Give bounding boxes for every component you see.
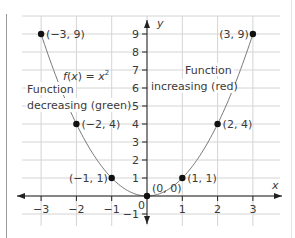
function-label: f(x) = x2 (63, 69, 109, 83)
increasing-annotation-line2: increasing (red) (151, 80, 238, 93)
y-tick-label: 8 (132, 46, 139, 59)
y-axis-label: y (156, 17, 164, 30)
point-label: (−3, 9) (46, 28, 85, 41)
y-tick-label: 6 (132, 82, 139, 95)
x-tick-label: −1 (104, 203, 120, 216)
data-point-marker (109, 175, 115, 181)
data-point-marker (250, 31, 256, 37)
x-axis-label: x (271, 179, 279, 192)
data-point-marker (214, 121, 220, 127)
y-tick-label: 7 (132, 64, 139, 77)
point-label: (0, 0) (152, 182, 182, 195)
x-tick-label: −2 (68, 203, 84, 216)
data-point-marker (38, 31, 44, 37)
point-label: (3, 9) (219, 28, 249, 41)
chart-figure: −3−2−1123−1123456789 (−3, 9)(−2, 4)(−1, … (0, 0, 295, 238)
x-tick-label: 2 (214, 203, 221, 216)
decreasing-annotation-line2: decreasing (green) (27, 99, 131, 112)
decreasing-annotation-line1: Function (27, 83, 74, 96)
x-tick-label: 3 (249, 203, 256, 216)
point-label: (−2, 4) (81, 118, 120, 131)
x-axis-arrow-right-icon (274, 193, 282, 199)
y-tick-label: 9 (132, 28, 139, 41)
point-label: (2, 4) (223, 118, 253, 131)
y-tick-label: 3 (132, 136, 139, 149)
point-label: (−1, 1) (69, 172, 108, 185)
y-tick-label: 5 (132, 100, 139, 113)
y-tick-label: 1 (132, 172, 139, 185)
y-tick-label: −1 (123, 208, 139, 221)
point-label: (1, 1) (187, 172, 217, 185)
chart-canvas: −3−2−1123−1123456789 (−3, 9)(−2, 4)(−1, … (0, 0, 295, 238)
origin-label: 0 (138, 199, 145, 212)
y-axis-arrow-up-icon (144, 20, 150, 28)
y-tick-label: 2 (132, 154, 139, 167)
x-tick-label: 1 (179, 203, 186, 216)
y-axis-arrow-down-icon (144, 216, 150, 224)
data-point-marker (179, 175, 185, 181)
data-point-marker (73, 121, 79, 127)
x-tick-label: −3 (33, 203, 49, 216)
y-tick-label: 4 (132, 118, 139, 131)
increasing-annotation-line1: Function (185, 64, 232, 77)
x-axis-arrow-left-icon (17, 193, 25, 199)
